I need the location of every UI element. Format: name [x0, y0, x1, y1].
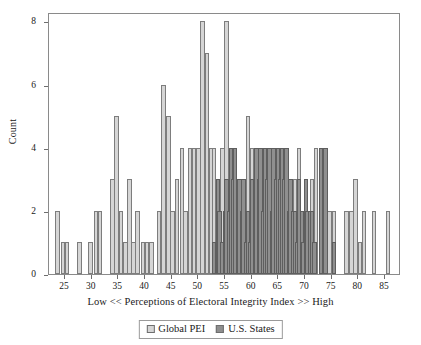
y-tick-label: 4 — [18, 144, 36, 154]
x-tick-mark — [91, 275, 92, 279]
x-tick-label: 45 — [156, 281, 186, 292]
x-tick-mark — [197, 275, 198, 279]
y-tick-mark — [44, 275, 48, 276]
bar-global-pei — [55, 211, 60, 274]
plot-frame — [48, 13, 400, 275]
x-tick-label: 25 — [49, 281, 79, 292]
legend-swatch-states — [216, 325, 224, 333]
bar-global-pei — [98, 211, 103, 274]
x-tick-mark — [331, 275, 332, 279]
bar-us-states — [332, 242, 337, 274]
x-tick-label: 30 — [76, 281, 106, 292]
x-tick-mark — [384, 275, 385, 279]
y-tick-label: 8 — [18, 17, 36, 27]
x-tick-label: 80 — [342, 281, 372, 292]
bar-global-pei — [362, 211, 367, 274]
plot-area — [49, 14, 399, 274]
x-tick-label: 70 — [289, 281, 319, 292]
legend-label: U.S. States — [228, 323, 274, 335]
x-axis-label: Low << Perceptions of Electoral Integrit… — [0, 296, 421, 307]
x-tick-mark — [224, 275, 225, 279]
legend-label: Global PEI — [158, 323, 205, 335]
y-tick-label: 6 — [18, 81, 36, 91]
bar-us-states — [312, 242, 317, 274]
x-tick-mark — [357, 275, 358, 279]
x-tick-mark — [64, 275, 65, 279]
bar-global-pei — [386, 211, 391, 274]
x-tick-label: 75 — [316, 281, 346, 292]
x-tick-label: 85 — [369, 281, 399, 292]
legend-entry: Global PEI — [146, 323, 205, 335]
x-tick-label: 35 — [102, 281, 132, 292]
bar-global-pei — [135, 211, 140, 274]
bar-global-pei — [149, 242, 154, 274]
x-tick-label: 55 — [209, 281, 239, 292]
legend-swatch-global — [146, 325, 154, 333]
x-tick-label: 40 — [129, 281, 159, 292]
y-tick-label: 2 — [18, 207, 36, 217]
x-tick-mark — [144, 275, 145, 279]
bar-global-pei — [65, 242, 70, 274]
x-tick-label: 65 — [262, 281, 292, 292]
bar-global-pei — [372, 211, 377, 274]
histogram-figure: Count 02468 25303540455055606570758085 L… — [0, 0, 421, 345]
chart-legend: Global PEIU.S. States — [138, 320, 282, 339]
y-axis-label: Count — [7, 102, 18, 162]
x-tick-mark — [304, 275, 305, 279]
bar-us-states — [323, 148, 328, 274]
x-tick-mark — [277, 275, 278, 279]
y-tick-label: 0 — [18, 270, 36, 280]
bar-global-pei — [77, 242, 82, 274]
x-tick-mark — [251, 275, 252, 279]
x-tick-mark — [171, 275, 172, 279]
x-tick-mark — [117, 275, 118, 279]
x-tick-label: 60 — [236, 281, 266, 292]
x-tick-label: 50 — [182, 281, 212, 292]
legend-entry: U.S. States — [216, 323, 274, 335]
bar-global-pei — [88, 242, 93, 274]
